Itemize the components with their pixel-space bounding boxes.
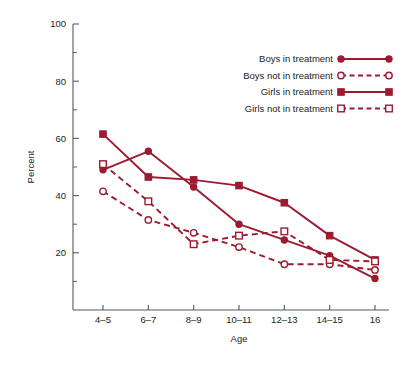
data-point-open-square (326, 257, 333, 264)
y-axis-tick-label: 80 (55, 76, 66, 87)
data-point-filled-square (190, 177, 196, 183)
data-point-open-circle (372, 267, 378, 273)
data-point-open-square (100, 161, 107, 168)
data-point-filled-square (326, 232, 332, 238)
data-point-open-circle (281, 261, 287, 267)
y-axis-tick-label: 20 (55, 247, 66, 258)
data-point-open-circle (145, 217, 151, 223)
x-axis-tick-label: 4–5 (95, 314, 111, 325)
y-axis-tick-label: 100 (50, 18, 66, 29)
data-point-filled-square (100, 131, 106, 137)
legend-item[interactable]: Boys not in treatment (243, 70, 392, 81)
legend-item-label: Girls not in treatment (245, 103, 334, 114)
x-axis-tick-label: 10–11 (226, 314, 252, 325)
legend-item[interactable]: Girls not in treatment (245, 103, 392, 114)
data-point-filled-square (145, 174, 151, 180)
data-point-filled-circle (338, 56, 344, 62)
data-point-open-square (372, 258, 379, 265)
data-point-filled-circle (191, 184, 197, 190)
data-point-open-square (281, 228, 288, 235)
data-point-open-square (236, 232, 243, 239)
x-axis-tick-label: 8–9 (186, 314, 202, 325)
data-point-open-circle (386, 72, 392, 78)
data-point-filled-circle (386, 56, 392, 62)
data-point-filled-circle (281, 237, 287, 243)
y-axis-tick-label: 60 (55, 133, 66, 144)
y-axis-title: Percent (25, 150, 36, 183)
data-point-open-circle (190, 230, 196, 236)
legend-item[interactable]: Boys in treatment (259, 53, 392, 64)
y-axis-tick-label: 40 (55, 190, 66, 201)
data-point-filled-square (281, 200, 287, 206)
legend-item[interactable]: Girls in treatment (261, 86, 393, 97)
legend: Boys in treatmentBoys not in treatmentGi… (243, 53, 392, 114)
line-chart-canvas: 204060801004–56–78–910–1112–1314–1516Age… (0, 0, 404, 375)
data-point-filled-circle (145, 148, 151, 154)
legend-item-label: Boys not in treatment (243, 70, 333, 81)
x-axis-tick-label: 14–15 (316, 314, 342, 325)
data-point-filled-square (386, 89, 392, 95)
x-axis-tick-label: 6–7 (140, 314, 156, 325)
data-point-filled-square (236, 182, 242, 188)
data-point-open-square (338, 105, 345, 112)
legend-item-label: Boys in treatment (259, 53, 333, 64)
data-point-filled-circle (372, 275, 378, 281)
data-point-open-square (190, 241, 197, 248)
x-axis-tick-label: 16 (370, 314, 381, 325)
x-axis-title: Age (231, 333, 248, 344)
legend-item-label: Girls in treatment (261, 86, 334, 97)
data-point-open-square (386, 105, 393, 112)
data-point-open-square (145, 198, 152, 205)
data-point-filled-circle (236, 221, 242, 227)
data-point-filled-square (338, 89, 344, 95)
data-point-open-circle (236, 244, 242, 250)
x-axis-tick-label: 12–13 (271, 314, 297, 325)
data-point-open-circle (338, 72, 344, 78)
data-point-open-circle (100, 188, 106, 194)
chart-figure: 204060801004–56–78–910–1112–1314–1516Age… (0, 0, 404, 375)
